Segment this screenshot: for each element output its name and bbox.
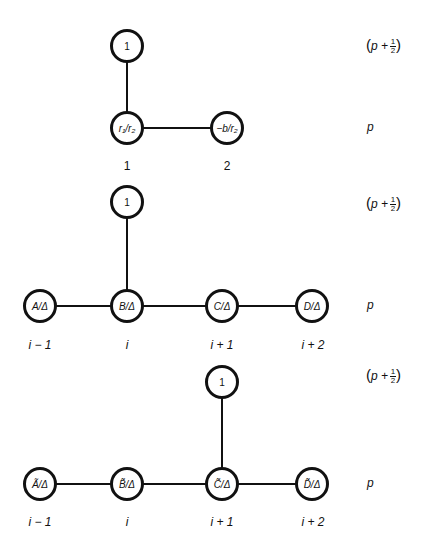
node-r1-r2: r₁/r₂ xyxy=(110,111,144,145)
node-label: Ã/Δ xyxy=(32,479,48,490)
node-one: 1 xyxy=(205,365,239,399)
node-label: r₁/r₂ xyxy=(119,123,135,134)
edge-n1-to-n2 xyxy=(143,127,211,129)
side-label-p-plus-half: (p +12) xyxy=(366,194,401,213)
index-label-i-plus-2: i + 2 xyxy=(301,515,324,529)
edge-top-to-n1 xyxy=(126,62,128,112)
side-label-p-plus-half: (p +12) xyxy=(366,366,401,385)
index-label-i-plus-1: i + 1 xyxy=(210,515,233,529)
node-label: A/Δ xyxy=(32,301,48,312)
side-label-p: p xyxy=(367,298,374,312)
index-label-2: 2 xyxy=(224,159,231,173)
index-label-i-minus-1: i − 1 xyxy=(28,515,51,529)
node-d-tilde-delta: D̃/Δ xyxy=(295,467,329,501)
node-d-delta: D/Δ xyxy=(295,289,329,323)
node-one: 1 xyxy=(110,185,144,219)
node-label: 1 xyxy=(219,377,225,388)
node-a-delta: A/Δ xyxy=(23,289,57,323)
node-c-tilde-delta: C̃/Δ xyxy=(205,467,239,501)
side-label-p: p xyxy=(367,120,374,134)
edge-b-to-c xyxy=(143,305,207,307)
edge-top-to-c xyxy=(221,398,223,468)
node-b-delta: B/Δ xyxy=(110,289,144,323)
edge-a-to-b xyxy=(56,305,112,307)
diagram-canvas: 1 r₁/r₂ −b/r₂ 1 2 (p +12) p 1 A/Δ B/Δ C/… xyxy=(0,0,430,540)
node-label: C̃/Δ xyxy=(214,479,231,490)
node-c-delta: C/Δ xyxy=(205,289,239,323)
node-label: B/Δ xyxy=(119,301,135,312)
side-label-p: p xyxy=(367,476,374,490)
index-label-i: i xyxy=(126,515,129,529)
edge-c-to-d xyxy=(238,305,298,307)
node-one: 1 xyxy=(110,29,144,63)
edge-b-to-c xyxy=(143,483,207,485)
node-b-tilde-delta: B̃/Δ xyxy=(110,467,144,501)
node-label: C/Δ xyxy=(214,301,231,312)
node-label: B̃/Δ xyxy=(119,479,135,490)
edge-top-to-b xyxy=(126,218,128,290)
node-label: −b/r₂ xyxy=(216,123,237,134)
node-label: D/Δ xyxy=(304,301,321,312)
index-label-i: i xyxy=(126,338,129,352)
edge-a-to-b xyxy=(56,483,112,485)
index-label-1: 1 xyxy=(124,159,131,173)
node-a-tilde-delta: Ã/Δ xyxy=(23,467,57,501)
index-label-i-plus-1: i + 1 xyxy=(210,338,233,352)
index-label-i-plus-2: i + 2 xyxy=(301,338,324,352)
node-label: D̃/Δ xyxy=(304,479,321,490)
index-label-i-minus-1: i − 1 xyxy=(28,338,51,352)
node-label: 1 xyxy=(124,41,130,52)
side-label-p-plus-half: (p +12) xyxy=(366,36,401,55)
node-minus-b-r2: −b/r₂ xyxy=(210,111,244,145)
edge-c-to-d xyxy=(238,483,298,485)
node-label: 1 xyxy=(124,197,130,208)
